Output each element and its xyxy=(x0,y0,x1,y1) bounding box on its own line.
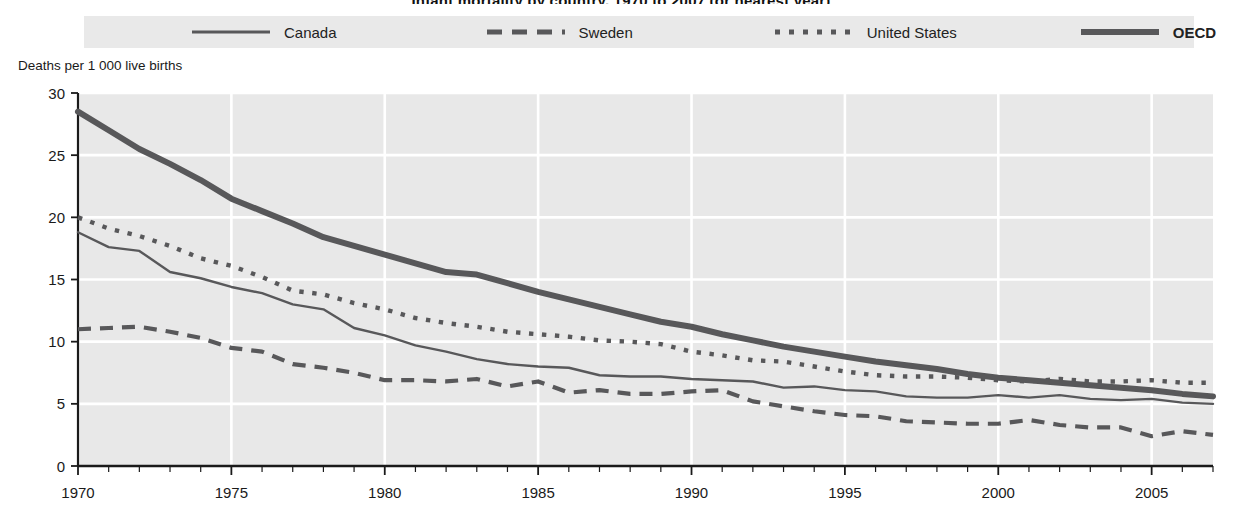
x-axis-tick-label: 1985 xyxy=(521,484,554,501)
line-chart-svg: 0510152025301970197519801985199019952000… xyxy=(0,0,1242,523)
y-axis-tick-label: 20 xyxy=(48,209,65,226)
x-axis-tick-label: 2000 xyxy=(982,484,1015,501)
x-axis-tick-label: 1990 xyxy=(675,484,708,501)
chart-plot-area: 0510152025301970197519801985199019952000… xyxy=(0,0,1242,523)
x-axis-tick-label: 1980 xyxy=(368,484,401,501)
x-axis-tick-label: 1995 xyxy=(828,484,861,501)
x-axis-tick-label: 1975 xyxy=(215,484,248,501)
x-axis-tick-label: 2005 xyxy=(1135,484,1168,501)
y-axis-tick-label: 5 xyxy=(57,395,65,412)
y-axis-tick-label: 15 xyxy=(48,271,65,288)
y-axis-tick-label: 30 xyxy=(48,85,65,102)
y-axis-tick-label: 0 xyxy=(57,458,65,475)
y-axis-tick-label: 10 xyxy=(48,333,65,350)
x-axis-tick-label: 1970 xyxy=(61,484,94,501)
y-axis-tick-label: 25 xyxy=(48,147,65,164)
